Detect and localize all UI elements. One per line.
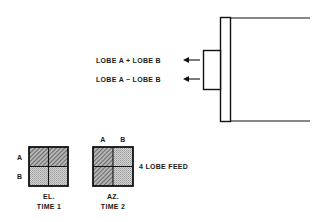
feed-flange (221, 18, 231, 122)
diagram-canvas (0, 0, 328, 222)
horn-body (230, 18, 310, 121)
difference-arrow-icon (183, 76, 200, 82)
az-col-label-b: B (120, 136, 125, 143)
el-row-label-b: B (17, 173, 22, 180)
sum-arrow-icon (183, 57, 200, 63)
el-time-caption: TIME 1 (37, 203, 61, 210)
el-grid (29, 147, 68, 186)
feed-name-label: 4 LOBE FEED (139, 163, 188, 170)
az-time-caption: TIME 2 (101, 203, 125, 210)
feed-port-box (204, 51, 221, 90)
el-caption: EL. (43, 193, 55, 200)
el-row-label-a: A (17, 154, 22, 161)
az-caption: AZ. (107, 193, 119, 200)
az-col-label-a: A (100, 136, 105, 143)
sum-output-label: LOBE A + LOBE B (96, 57, 161, 64)
difference-output-label: LOBE A − LOBE B (96, 76, 161, 83)
az-grid (93, 147, 133, 186)
